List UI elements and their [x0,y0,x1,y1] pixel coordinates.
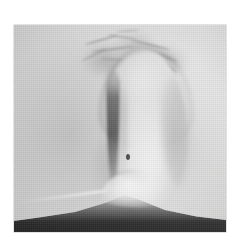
photograph-plate [14,25,226,232]
page-root [0,0,239,244]
